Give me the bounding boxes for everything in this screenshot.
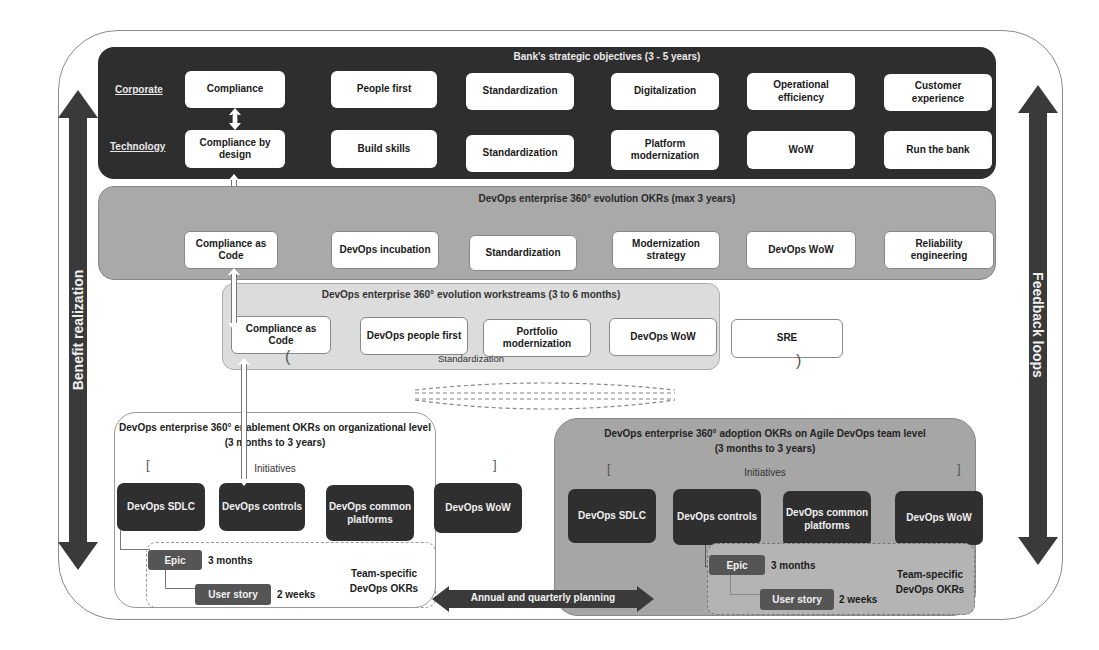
team-specific-okrs: Team-specific DevOps OKRs: [339, 566, 429, 596]
okr-standardization: Standardization: [469, 235, 577, 271]
connector-line: [730, 575, 760, 595]
evolution-workstreams-title: DevOps enterprise 360° evolution workstr…: [223, 289, 719, 300]
user-story-tag: User story: [760, 589, 834, 610]
connector-line: [165, 570, 195, 589]
user-story-tag: User story: [195, 584, 271, 605]
bracket-open: (: [285, 348, 290, 366]
initiative-devops-controls: DevOps controls: [673, 489, 761, 545]
dashed-funnel-shape: [410, 378, 680, 418]
initiative-devops-common-platforms: DevOps common platforms: [783, 491, 871, 547]
corporate-digitalization: Digitalization: [611, 73, 719, 110]
initiatives-label: Initiatives: [115, 463, 435, 474]
corporate-label: Corporate: [115, 84, 163, 95]
benefit-realization-arrow: Benefit realization: [58, 90, 98, 570]
benefit-realization-label: Benefit realization: [70, 270, 86, 391]
initiative-devops-wow: DevOps WoW: [434, 483, 522, 533]
ws-portfolio-modernization: Portfolio modernization: [483, 319, 591, 357]
arrow-up-icon: [58, 90, 98, 118]
ws-devops-wow: DevOps WoW: [609, 318, 717, 356]
strategic-objectives-title: Bank's strategic objectives (3 - 5 years…: [98, 51, 996, 62]
evolution-okrs-panel: DevOps enterprise 360° evolution OKRs (m…: [98, 186, 996, 280]
enablement-okrs-title: DevOps enterprise 360° enablement OKRs o…: [115, 421, 435, 450]
okr-devops-wow: DevOps WoW: [746, 231, 856, 269]
initiative-devops-sdlc: DevOps SDLC: [117, 483, 205, 531]
initiative-devops-sdlc: DevOps SDLC: [568, 489, 656, 543]
evolution-okrs-title: DevOps enterprise 360° evolution OKRs (m…: [99, 193, 995, 204]
evolution-workstreams-panel: DevOps enterprise 360° evolution workstr…: [222, 283, 720, 370]
tech-run-the-bank: Run the bank: [884, 131, 992, 169]
okr-compliance-as-code: Compliance as Code: [184, 231, 278, 269]
connector-line: [120, 530, 150, 550]
user-story-duration: 2 weeks: [277, 589, 315, 600]
annual-quarterly-planning-label: Annual and quarterly planning: [432, 592, 654, 603]
initiative-devops-wow: DevOps WoW: [895, 491, 983, 545]
double-arrow-icon: [229, 108, 241, 130]
epic-tag: Epic: [709, 555, 765, 575]
adoption-okrs-title: DevOps enterprise 360° adoption OKRs on …: [555, 427, 975, 456]
tech-compliance-by-design: Compliance by design: [185, 130, 285, 168]
tech-platform-modernization: Platform modernization: [611, 130, 719, 170]
arrow-up-icon: [1018, 85, 1058, 113]
okr-devops-incubation: DevOps incubation: [331, 231, 439, 269]
team-specific-okrs: Team-specific DevOps OKRs: [885, 567, 975, 597]
tech-build-skills: Build skills: [331, 130, 437, 168]
tech-wow: WoW: [747, 131, 855, 169]
corporate-compliance: Compliance: [185, 71, 285, 108]
bracket-close: ): [796, 352, 801, 370]
corporate-people-first: People first: [331, 71, 437, 108]
arrow-down-icon: [58, 542, 98, 570]
arrow-down-icon: [1018, 537, 1058, 565]
ws-compliance-as-code: Compliance as Code: [231, 316, 331, 354]
feedback-loops-label: Feedback loops: [1030, 272, 1046, 378]
corporate-customer-experience: Customer experience: [884, 74, 992, 111]
ws-devops-people-first: DevOps people first: [360, 317, 468, 355]
initiative-devops-common-platforms: DevOps common platforms: [326, 485, 414, 541]
epic-duration: 3 months: [771, 560, 815, 571]
ws-sre: SRE: [731, 319, 843, 358]
annual-quarterly-planning-arrow: Annual and quarterly planning: [432, 586, 654, 612]
standardization-group-label: Standardization: [223, 353, 719, 364]
okr-modernization-strategy: Modernization strategy: [612, 231, 720, 269]
corporate-operational-efficiency: Operational efficiency: [747, 73, 855, 110]
strategic-objectives-panel: Bank's strategic objectives (3 - 5 years…: [98, 47, 996, 179]
bracket-close: ]: [493, 457, 497, 472]
user-story-duration: 2 weeks: [839, 594, 877, 605]
epic-tag: Epic: [148, 550, 202, 570]
double-arrow-icon: [228, 268, 240, 330]
technology-label: Technology: [110, 141, 165, 152]
tech-standardization: Standardization: [466, 135, 574, 172]
initiative-devops-controls: DevOps controls: [219, 483, 305, 531]
corporate-standardization: Standardization: [466, 73, 574, 110]
epic-duration: 3 months: [208, 555, 252, 566]
okr-reliability-engineering: Reliability engineering: [884, 231, 994, 269]
initiatives-label: Initiatives: [555, 467, 975, 478]
feedback-loops-arrow: Feedback loops: [1018, 85, 1058, 565]
double-arrow-icon: [238, 358, 250, 486]
